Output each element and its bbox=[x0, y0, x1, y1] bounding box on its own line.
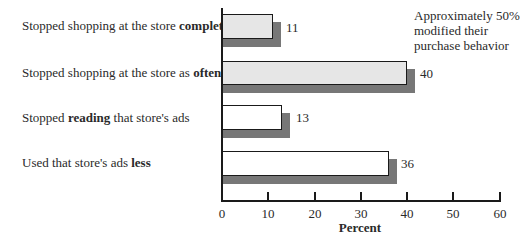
label-text: Stopped shopping at the store bbox=[22, 18, 179, 33]
bar-often bbox=[222, 61, 407, 85]
label-emphasis: often bbox=[193, 65, 221, 80]
value-label: 36 bbox=[401, 156, 414, 172]
x-tick bbox=[267, 192, 269, 201]
value-label: 13 bbox=[296, 110, 309, 126]
x-tick bbox=[314, 192, 316, 201]
annotation-note: Approximately 50% modified their purchas… bbox=[414, 8, 524, 53]
bar-completely bbox=[222, 14, 273, 39]
y-axis-line bbox=[221, 8, 223, 202]
x-tick-label: 60 bbox=[494, 206, 507, 222]
annotation-line: purchase behavior bbox=[414, 38, 524, 53]
annotation-line: Approximately 50% bbox=[414, 8, 524, 23]
x-tick-label: 50 bbox=[447, 206, 460, 222]
x-tick-label: 40 bbox=[401, 206, 414, 222]
label-text: Used that store's ads bbox=[22, 155, 131, 170]
label-emphasis: reading bbox=[68, 110, 110, 125]
bar-reading bbox=[222, 105, 282, 130]
x-tick bbox=[406, 192, 408, 201]
x-tick-label: 0 bbox=[219, 206, 226, 222]
x-tick-label: 20 bbox=[309, 206, 322, 222]
label-text: that store's ads bbox=[110, 110, 189, 125]
value-label: 40 bbox=[420, 66, 433, 82]
category-label-often: Stopped shopping at the store as often bbox=[22, 65, 221, 81]
category-label-completely: Stopped shopping at the store completely bbox=[22, 18, 239, 34]
annotation-line: modified their bbox=[414, 23, 524, 38]
x-tick bbox=[499, 192, 501, 201]
label-emphasis: less bbox=[131, 155, 151, 170]
label-text: Stopped shopping at the store as bbox=[22, 65, 193, 80]
value-label: 11 bbox=[286, 20, 299, 36]
x-tick bbox=[452, 192, 454, 201]
x-tick-label: 10 bbox=[262, 206, 275, 222]
category-label-less: Used that store's ads less bbox=[22, 155, 151, 171]
x-tick bbox=[360, 192, 362, 201]
label-text: Stopped bbox=[22, 110, 68, 125]
bar-less bbox=[222, 151, 389, 176]
category-label-reading: Stopped reading that store's ads bbox=[22, 110, 190, 126]
x-axis-title: Percent bbox=[339, 220, 381, 236]
